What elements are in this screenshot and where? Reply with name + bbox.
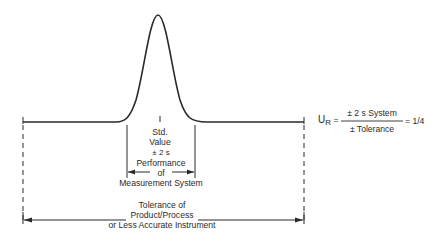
outer-arrowhead-left	[24, 218, 32, 223]
baseline	[23, 15, 304, 122]
inner-range-line2: Performance	[111, 158, 211, 168]
inner-range-line1: ± 2 s	[111, 148, 211, 158]
formula-equals: =	[334, 116, 339, 125]
center-label: Std. Value	[140, 127, 180, 147]
inner-range-line4: Measurement System	[111, 178, 211, 188]
formula-lhs: UR =	[318, 115, 338, 126]
outer-range-line1: Tolerance of	[92, 200, 232, 210]
outer-range-line2-text: Product/Process	[129, 210, 194, 220]
formula-denominator: ± Tolerance	[341, 124, 403, 134]
formula-result: = 1/4	[405, 116, 424, 126]
formula-numerator: ± 2 s System	[341, 108, 403, 118]
outer-range-line2: Product/Process	[92, 210, 232, 220]
outer-arrowhead-right	[295, 218, 303, 223]
center-label-line2: Value	[140, 137, 180, 147]
inner-range-label: ± 2 s Performance of Measurement System	[111, 148, 211, 188]
inner-range-line3: of	[111, 168, 211, 178]
outer-range-line3: or Less Accurate Instrument	[92, 220, 232, 230]
outer-range-label: Tolerance of Product/Process or Less Acc…	[92, 200, 232, 230]
center-label-line1: Std.	[140, 127, 180, 137]
formula-lhs-subscript: R	[325, 118, 331, 127]
